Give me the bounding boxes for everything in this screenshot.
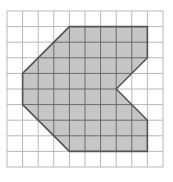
grid-diagram [0, 0, 173, 182]
